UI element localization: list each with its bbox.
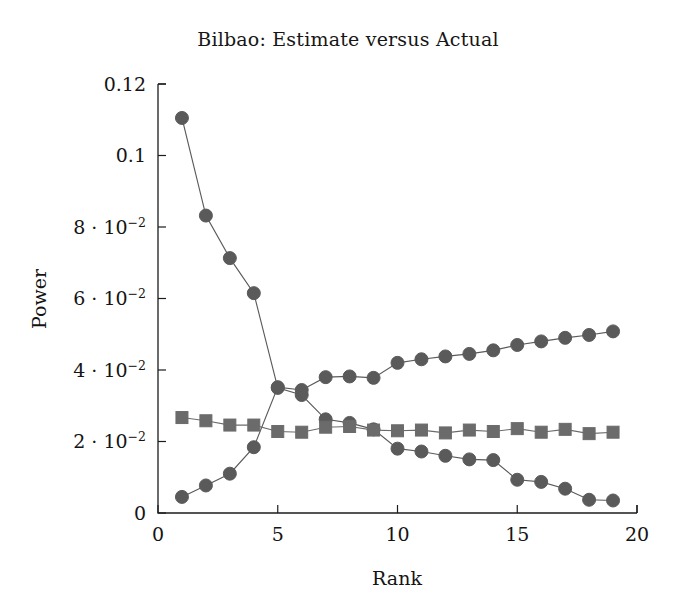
data-point-circle [583, 328, 596, 341]
data-point-circle [511, 473, 524, 486]
x-tick-label: 5 [272, 523, 284, 545]
x-tick-label: 20 [625, 523, 649, 545]
data-point-circle [487, 454, 500, 467]
y-tick-label: 0 [134, 502, 146, 524]
y-tick-label: 0.12 [104, 73, 146, 95]
data-point-circle [559, 482, 572, 495]
data-point-square [439, 427, 451, 439]
data-point-circle [535, 475, 548, 488]
data-point-square [248, 419, 260, 431]
data-point-square [176, 412, 188, 424]
chart-figure: Bilbao: Estimate versus Actual 02 · 10−2… [0, 0, 696, 615]
data-point-circle [271, 381, 284, 394]
data-point-circle [247, 287, 260, 300]
y-tick-group: 02 · 10−24 · 10−26 · 10−28 · 10−20.10.12 [73, 73, 166, 524]
data-point-circle [199, 479, 212, 492]
data-point-circle [583, 493, 596, 506]
data-point-square [535, 426, 547, 438]
plot-area: 02 · 10−24 · 10−26 · 10−28 · 10−20.10.12… [0, 0, 696, 615]
data-point-circle [535, 335, 548, 348]
series-estimate-ascending [175, 325, 619, 504]
data-point-circle [223, 252, 236, 265]
data-point-circle [247, 441, 260, 454]
data-point-circle [463, 347, 476, 360]
data-point-circle [439, 449, 452, 462]
data-point-square [511, 423, 523, 435]
data-point-square [583, 428, 595, 440]
x-tick-label: 10 [385, 523, 409, 545]
y-axis-title: Power [28, 268, 50, 329]
data-point-square [415, 424, 427, 436]
data-point-square [272, 425, 284, 437]
series-estimate-flat-squares [176, 412, 619, 440]
data-point-circle [175, 111, 188, 124]
data-point-circle [463, 453, 476, 466]
y-tick-label: 4 · 10−2 [73, 358, 146, 381]
data-point-square [224, 419, 236, 431]
x-tick-group: 05101520 [152, 505, 649, 545]
data-point-circle [607, 494, 620, 507]
data-point-square [368, 424, 380, 436]
data-point-circle [415, 445, 428, 458]
x-tick-label: 15 [505, 523, 529, 545]
data-point-circle [223, 467, 236, 480]
data-point-circle [415, 353, 428, 366]
y-tick-label: 6 · 10−2 [73, 286, 146, 309]
x-axis-title: Rank [372, 567, 422, 589]
y-tick-label: 8 · 10−2 [73, 215, 146, 238]
data-point-square [607, 426, 619, 438]
data-point-square [559, 423, 571, 435]
data-point-circle [199, 209, 212, 222]
data-point-square [296, 426, 308, 438]
data-point-circle [439, 350, 452, 363]
y-tick-label: 2 · 10−2 [73, 429, 146, 452]
data-point-circle [391, 356, 404, 369]
data-point-circle [175, 490, 188, 503]
series-actual-descending [175, 111, 619, 507]
data-point-circle [511, 338, 524, 351]
data-point-circle [391, 442, 404, 455]
series-group [175, 111, 619, 507]
data-point-circle [367, 371, 380, 384]
data-point-square [344, 420, 356, 432]
data-point-circle [343, 370, 356, 383]
data-point-square [463, 424, 475, 436]
data-point-square [487, 425, 499, 437]
data-point-square [200, 415, 212, 427]
data-point-circle [559, 331, 572, 344]
data-point-square [392, 425, 404, 437]
x-tick-label: 0 [152, 523, 164, 545]
data-point-circle [295, 384, 308, 397]
y-tick-label: 0.1 [116, 144, 146, 166]
data-point-square [320, 421, 332, 433]
data-point-circle [487, 344, 500, 357]
data-point-circle [319, 371, 332, 384]
data-point-circle [607, 325, 620, 338]
